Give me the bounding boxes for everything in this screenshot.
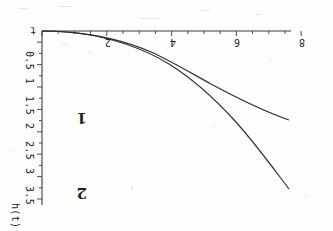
curve-1-path — [42, 31, 289, 120]
y-tick-label-3: 3 — [24, 168, 34, 174]
x-tick-label-8: 8 — [299, 37, 305, 47]
curve-label-1: 1 — [77, 110, 87, 125]
x-tick-label-2: 2 — [105, 37, 111, 47]
y-tick-label-2-5: 2.5 — [24, 141, 34, 160]
y-tick-label-3-5: 3.5 — [24, 186, 34, 205]
x-tick-label-6: 6 — [234, 37, 240, 47]
y-tick-label-0-5: 0.5 — [24, 51, 34, 70]
y-axis-ticks — [37, 42, 42, 199]
y-tick-label-2: 2 — [24, 123, 34, 129]
plot-canvas — [0, 0, 333, 231]
y-axis — [37, 31, 42, 205]
y-tick-label-1-5: 1.5 — [24, 96, 34, 115]
figure-root: 2 4 6 8 t 0.5 1 1.5 2 2.5 3 3.5 h(t) 1 2 — [0, 0, 333, 231]
curve-label-2: 2 — [77, 185, 87, 200]
scanned-plate: 2 4 6 8 t 0.5 1 1.5 2 2.5 3 3.5 h(t) 1 2 — [0, 0, 333, 231]
y-axis-title: h(t) — [10, 203, 20, 228]
y-tick-label-1: 1 — [24, 78, 34, 84]
x-axis-title: t — [30, 25, 36, 35]
x-tick-label-4: 4 — [170, 37, 176, 47]
